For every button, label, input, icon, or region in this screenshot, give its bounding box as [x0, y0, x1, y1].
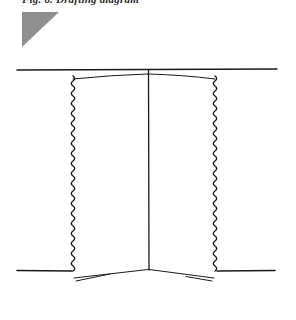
line-drawing	[0, 0, 296, 320]
bottom-left-horizontal-stub	[17, 271, 72, 272]
center-vertical-line	[149, 70, 150, 270]
right-wavy-edge	[213, 76, 216, 271]
scanned-figure-page: Fig. 6. Drafting diagram	[0, 0, 296, 320]
bottom-right-horizontal-stub	[217, 271, 275, 272]
top-horizontal-rule	[17, 69, 277, 70]
upper-sagging-line-right	[148, 74, 215, 79]
bottom-slant-right	[149, 270, 214, 279]
upper-sagging-line-left	[73, 74, 148, 79]
bottom-slant-left	[74, 270, 148, 279]
left-wavy-edge	[71, 76, 74, 271]
